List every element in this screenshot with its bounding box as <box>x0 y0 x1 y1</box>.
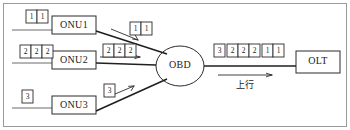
arrow-upstream-direction <box>218 73 272 76</box>
cell-group-onu3-queue: 3 <box>22 90 33 103</box>
cell-label: 3 <box>108 86 112 95</box>
diagram-canvas: ONU1 ONU2 ONU3 OBD OLT <box>0 0 350 130</box>
node-obd-label: OBD <box>169 59 191 70</box>
cell-label: 1 <box>145 24 149 33</box>
cell-label: 3 <box>218 46 222 55</box>
cell-group-trunk-stream: 3 2 2 2 1 1 <box>214 44 284 57</box>
cell-group-onu2-queue: 2 2 2 <box>20 45 53 58</box>
cell-label: 2 <box>118 46 122 55</box>
cell-label: 1 <box>30 12 34 21</box>
cell-group-onu2-uplink: 2 2 2 <box>103 44 136 57</box>
cell-group-onu1-uplink: 1 1 <box>130 22 152 35</box>
upstream-direction-label: 上行 <box>236 79 254 90</box>
cell-group-onu1-queue: 1 1 <box>26 10 48 23</box>
node-onu2-label: ONU2 <box>60 54 88 65</box>
cell-label: 2 <box>129 46 133 55</box>
cell-label: 2 <box>46 47 50 56</box>
cell-label: 2 <box>242 46 246 55</box>
cell-label: 2 <box>231 46 235 55</box>
cell-label: 1 <box>134 24 138 33</box>
node-onu1-label: ONU1 <box>60 19 88 30</box>
node-olt-label: OLT <box>308 55 327 66</box>
cell-label: 2 <box>24 47 28 56</box>
cell-label: 1 <box>266 46 270 55</box>
link-onu2-obd <box>96 63 156 65</box>
pon-upstream-diagram: ONU1 ONU2 ONU3 OBD OLT <box>0 0 350 130</box>
cell-label: 2 <box>35 47 39 56</box>
cell-label: 1 <box>41 12 45 21</box>
cell-label: 2 <box>107 46 111 55</box>
cell-group-onu3-uplink: 3 <box>104 84 115 97</box>
cell-label: 2 <box>253 46 257 55</box>
cell-label: 1 <box>277 46 281 55</box>
node-onu3-label: ONU3 <box>60 99 88 110</box>
cell-label: 3 <box>26 92 30 101</box>
